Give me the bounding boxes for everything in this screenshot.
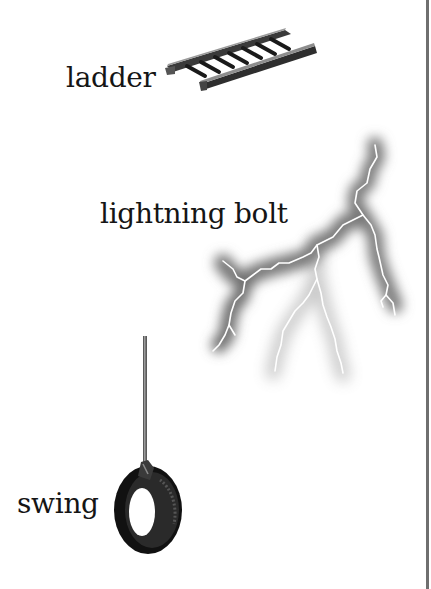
word-ladder: ladder xyxy=(66,64,156,92)
ladder-icon xyxy=(165,26,320,92)
worksheet-page: ladder lightning bolt xyxy=(0,0,431,589)
tire-swing-icon xyxy=(108,334,188,558)
page-divider xyxy=(426,0,429,589)
word-swing: swing xyxy=(17,490,99,518)
lightning-bolt-icon xyxy=(205,145,410,380)
